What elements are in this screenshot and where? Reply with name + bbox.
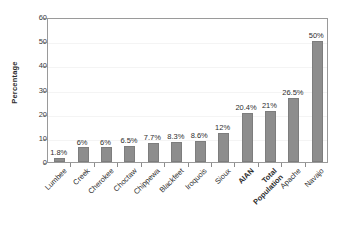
y-axis-tick-label: 20 (7, 111, 47, 119)
bar-value-label: 26.5% (276, 89, 310, 97)
x-axis-tick (281, 163, 282, 167)
y-axis-tick-label: 30 (7, 87, 47, 95)
bar (171, 142, 182, 162)
bar-value-label: 50% (299, 32, 333, 40)
x-axis-tick (305, 163, 306, 167)
y-axis-tick-label: 40 (7, 62, 47, 70)
y-axis-tick-label: 10 (7, 135, 47, 143)
x-axis-tick (94, 163, 95, 167)
bar-chart: Percentage 0102030405060 1.8%6%6%6.5%7.7… (0, 0, 343, 235)
x-axis-tick (164, 163, 165, 167)
bar (101, 147, 112, 162)
x-axis-tick (234, 163, 235, 167)
bar-value-label: 8.6% (182, 132, 216, 140)
bar (54, 158, 65, 162)
y-axis-title: Percentage (10, 48, 19, 118)
x-axis-tick (70, 163, 71, 167)
bar (218, 133, 229, 162)
x-axis-tick (141, 163, 142, 167)
gridline (48, 43, 327, 44)
bar (312, 41, 323, 162)
bar-value-label: 1.8% (42, 149, 76, 157)
gridline (48, 116, 327, 117)
x-axis-category-label: Navajo (278, 167, 326, 215)
bar (124, 146, 135, 162)
y-axis-tick-label: 0 (7, 159, 47, 167)
bar-value-label: 12% (206, 124, 240, 132)
bar (242, 113, 253, 162)
bar-value-label: 21% (252, 102, 286, 110)
bar (195, 141, 206, 162)
bar (265, 111, 276, 162)
x-axis-tick (211, 163, 212, 167)
x-axis-tick (117, 163, 118, 167)
x-axis-tick (258, 163, 259, 167)
x-axis-tick (188, 163, 189, 167)
y-axis-tick (43, 163, 47, 164)
y-axis-tick-label: 60 (7, 14, 47, 22)
y-axis-tick-label: 50 (7, 38, 47, 46)
bar (148, 143, 159, 162)
bar (78, 147, 89, 162)
bar (288, 98, 299, 162)
gridline (48, 67, 327, 68)
